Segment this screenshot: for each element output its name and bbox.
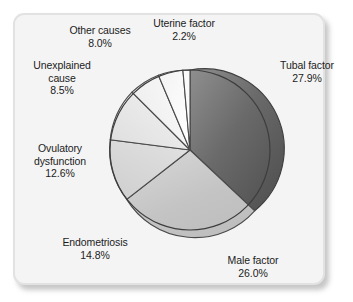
pie-label-unexplained-cause: Unexplained cause 8.5% — [17, 59, 107, 97]
pie-label-male-factor-value: 26.0% — [205, 267, 301, 280]
pie-label-uterine-factor-name: Uterine factor — [133, 17, 235, 30]
pie-label-uterine-factor: Uterine factor 2.2% — [133, 17, 235, 42]
pie-label-unexplained-cause-name-line1: Unexplained — [17, 59, 107, 72]
pie-label-endometriosis: Endometriosis 14.8% — [43, 236, 147, 261]
pie-label-uterine-factor-value: 2.2% — [133, 30, 235, 43]
pie-chart-figure: Uterine factor 2.2% Tubal factor 27.9% M… — [0, 0, 353, 302]
pie-label-other-causes: Other causes 8.0% — [54, 24, 146, 49]
pie-label-tubal-factor: Tubal factor 27.9% — [262, 59, 352, 84]
pie-label-unexplained-cause-name-line2: cause — [17, 72, 107, 85]
pie-label-tubal-factor-value: 27.9% — [262, 72, 352, 85]
pie-label-tubal-factor-name: Tubal factor — [262, 59, 352, 72]
pie-label-other-causes-value: 8.0% — [54, 37, 146, 50]
pie-label-ovulatory-dysfunction-name-line2: dysfunction — [12, 155, 108, 168]
pie-label-male-factor-name: Male factor — [205, 254, 301, 267]
pie-label-ovulatory-dysfunction-value: 12.6% — [12, 167, 108, 180]
pie-label-male-factor: Male factor 26.0% — [205, 254, 301, 279]
pie-label-ovulatory-dysfunction-name-line1: Ovulatory — [12, 142, 108, 155]
pie-label-ovulatory-dysfunction: Ovulatory dysfunction 12.6% — [12, 142, 108, 180]
pie-label-unexplained-cause-value: 8.5% — [17, 84, 107, 97]
pie-label-endometriosis-value: 14.8% — [43, 249, 147, 262]
pie-label-endometriosis-name: Endometriosis — [43, 236, 147, 249]
pie-label-other-causes-name: Other causes — [54, 24, 146, 37]
